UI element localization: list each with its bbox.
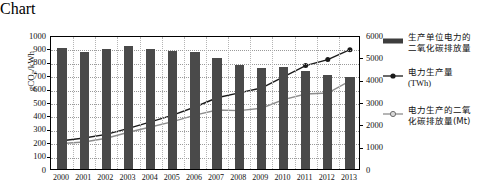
- legend-item-total-emissions: 电力生产的二氧 化碳排放量(Mt): [382, 105, 499, 127]
- y-axis-left-tickmark: [47, 63, 50, 64]
- bar-2000: [57, 48, 66, 169]
- bar-2002: [102, 49, 111, 169]
- data-point-2012: [325, 57, 330, 62]
- y-axis-left-tick-800: 800: [20, 58, 46, 67]
- gridline-horizontal: [51, 77, 359, 78]
- gridline-horizontal: [51, 144, 359, 145]
- bar-2009: [257, 68, 266, 169]
- bar-2003: [124, 46, 133, 169]
- y-axis-left-tickmark: [47, 157, 50, 158]
- bar-2007: [212, 58, 221, 169]
- bar-2013: [345, 77, 354, 169]
- gridline-horizontal: [51, 50, 359, 51]
- bar-2008: [235, 65, 244, 169]
- chart-container: gCO2/kWh 年份 生产单位电力的 二氧化碳排放量 电力生产量: [0, 18, 499, 192]
- gridline-vertical: [95, 37, 96, 169]
- bar-2005: [168, 51, 177, 169]
- gridline-horizontal: [51, 104, 359, 105]
- gridline-vertical: [295, 37, 296, 169]
- x-axis-tick-2013: 2013: [334, 174, 364, 182]
- y-axis-left-tick-400: 400: [20, 112, 46, 121]
- legend-label-line1: 生产单位电力的: [408, 32, 499, 43]
- y-axis-right-tick-0: 0: [366, 166, 396, 175]
- chart-legend: 生产单位电力的 二氧化碳排放量 电力生产量 (TWh): [382, 32, 499, 127]
- y-axis-right-tickmark: [360, 103, 363, 104]
- gridline-vertical: [162, 37, 163, 169]
- gridline-vertical: [272, 37, 273, 169]
- gridline-horizontal: [51, 158, 359, 159]
- gridline-horizontal: [51, 117, 359, 118]
- y-axis-left-tickmark: [47, 49, 50, 50]
- y-axis-right-tickmark: [360, 125, 363, 126]
- legend-label-electricity-production: 电力生产量 (TWh): [408, 67, 499, 89]
- y-axis-left-tick-1000: 1000: [20, 32, 46, 41]
- y-axis-left-tick-200: 200: [20, 139, 46, 148]
- bar-2010: [279, 67, 288, 169]
- gridline-vertical: [117, 37, 118, 169]
- y-axis-right-tickmark: [360, 81, 363, 82]
- legend-label-line1: 电力生产量: [408, 67, 499, 78]
- y-axis-right-tick-2000: 2000: [366, 121, 396, 130]
- legend-item-electricity-production: 电力生产量 (TWh): [382, 67, 499, 89]
- gridline-vertical: [73, 37, 74, 169]
- gridline-horizontal: [51, 91, 359, 92]
- bar-2011: [301, 71, 310, 169]
- gridline-vertical: [250, 37, 251, 169]
- gridline-vertical: [206, 37, 207, 169]
- y-axis-left-tick-900: 900: [20, 45, 46, 54]
- legend-label-line2: (TWh): [408, 78, 499, 89]
- y-axis-left-tick-500: 500: [20, 99, 46, 108]
- gridline-vertical: [339, 37, 340, 169]
- gridline-horizontal: [51, 64, 359, 65]
- bar-2001: [80, 52, 89, 169]
- legend-item-emission-intensity: 生产单位电力的 二氧化碳排放量: [382, 32, 499, 54]
- y-axis-left-tick-0: 0: [20, 166, 46, 175]
- y-axis-left-tickmark: [47, 143, 50, 144]
- bar-2012: [323, 75, 332, 169]
- gridline-vertical: [140, 37, 141, 169]
- y-axis-right-tick-6000: 6000: [366, 32, 396, 41]
- y-axis-left-tickmark: [47, 103, 50, 104]
- legend-label-total-emissions: 电力生产的二氧 化碳排放量(Mt): [408, 105, 499, 127]
- legend-label-line2: 二氧化碳排放量: [408, 43, 499, 54]
- y-axis-left-tick-600: 600: [20, 85, 46, 94]
- gridline-horizontal: [51, 131, 359, 132]
- y-axis-right-tick-1000: 1000: [366, 143, 396, 152]
- y-axis-left-tick-100: 100: [20, 152, 46, 161]
- y-axis-left-tick-300: 300: [20, 125, 46, 134]
- legend-label-emission-intensity: 生产单位电力的 二氧化碳排放量: [408, 32, 499, 54]
- bar-2006: [190, 52, 199, 169]
- plot-area: [50, 36, 360, 170]
- y-axis-left-tickmark: [47, 130, 50, 131]
- y-axis-left-tickmark: [47, 90, 50, 91]
- y-axis-right-tickmark: [360, 58, 363, 59]
- y-axis-left-tickmark: [47, 76, 50, 77]
- gridline-vertical: [228, 37, 229, 169]
- y-axis-left-tickmark: [47, 116, 50, 117]
- gridline-vertical: [184, 37, 185, 169]
- y-axis-left-tick-700: 700: [20, 72, 46, 81]
- bar-2004: [146, 49, 155, 169]
- y-axis-right-tickmark: [360, 148, 363, 149]
- legend-label-line2: 化碳排放量(Mt): [408, 116, 499, 127]
- y-axis-right-tick-3000: 3000: [366, 99, 396, 108]
- y-axis-right-tick-4000: 4000: [366, 76, 396, 85]
- legend-marker-line-open: [382, 109, 404, 119]
- legend-label-line1: 电力生产的二氧: [408, 105, 499, 116]
- gridline-vertical: [317, 37, 318, 169]
- y-axis-right-tick-5000: 5000: [366, 54, 396, 63]
